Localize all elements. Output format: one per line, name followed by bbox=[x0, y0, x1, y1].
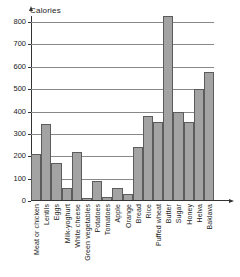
y-tick-mark bbox=[28, 201, 31, 202]
x-label-slot: Apple bbox=[112, 203, 122, 275]
x-label-slot: Milk-yoghurt bbox=[62, 203, 72, 275]
bar-sugar bbox=[173, 112, 183, 201]
x-axis-line bbox=[31, 200, 230, 201]
bar-slot bbox=[82, 22, 92, 201]
x-label-slot: Tomatoes bbox=[102, 203, 112, 275]
bar-rice bbox=[143, 116, 153, 201]
x-label-slot: Meat or chicken bbox=[31, 203, 41, 275]
y-tick-label: 200 bbox=[13, 151, 26, 160]
x-axis-label: Butter bbox=[165, 204, 172, 223]
bar-slot bbox=[123, 22, 133, 201]
x-axis-label: Milk-yoghurt bbox=[63, 204, 70, 243]
x-label-slot: Puffed wheat bbox=[153, 203, 163, 275]
x-axis-label: Rice bbox=[144, 204, 151, 218]
y-tick-label: 100 bbox=[13, 174, 26, 183]
bar-slot bbox=[153, 22, 163, 201]
bar-slot bbox=[184, 22, 194, 201]
x-axis-label: Helva bbox=[195, 204, 202, 222]
x-axis-label: Orange bbox=[124, 204, 131, 228]
bar-bread bbox=[133, 147, 143, 201]
bar-lentils bbox=[41, 124, 51, 201]
x-axis-label: Puffed wheat bbox=[155, 204, 162, 246]
bars-group bbox=[31, 22, 214, 201]
x-label-slot: Honey bbox=[184, 203, 194, 275]
x-axis-label: Meat or chicken bbox=[33, 204, 40, 255]
bar-slot bbox=[31, 22, 41, 201]
x-label-slot: Lentils bbox=[41, 203, 51, 275]
y-axis-arrow-icon bbox=[29, 6, 33, 11]
y-tick-label: 400 bbox=[13, 107, 26, 116]
bar-helva bbox=[194, 89, 204, 201]
bar-slot bbox=[72, 22, 82, 201]
x-label-slot: Baklava bbox=[204, 203, 214, 275]
calories-bar-chart: Calories 0100200300400500600700800 Meat … bbox=[0, 0, 240, 277]
x-axis-label: Tomatoes bbox=[104, 204, 111, 235]
bar-puffed-wheat bbox=[153, 122, 163, 201]
bar-meat-or-chicken bbox=[31, 154, 41, 201]
bar-slot bbox=[204, 22, 214, 201]
x-axis-label: Eggs bbox=[53, 204, 60, 220]
x-label-slot: White cheese bbox=[72, 203, 82, 275]
bar-slot bbox=[133, 22, 143, 201]
x-axis-label: Sugar bbox=[175, 204, 182, 223]
x-axis-labels-group: Meat or chickenLentilsEggsMilk-yoghurtWh… bbox=[31, 203, 214, 275]
x-axis-label: Lentils bbox=[43, 204, 50, 225]
x-label-slot: Butter bbox=[163, 203, 173, 275]
x-axis-label: Baklava bbox=[206, 204, 213, 230]
y-tick-label: 700 bbox=[13, 39, 26, 48]
bar-slot bbox=[173, 22, 183, 201]
x-label-slot: Rice bbox=[143, 203, 153, 275]
bar-white-cheese bbox=[72, 152, 82, 201]
x-axis-arrow-icon bbox=[229, 199, 234, 203]
x-axis-label: Green vegetables bbox=[83, 204, 90, 261]
bar-butter bbox=[163, 16, 173, 201]
y-tick-label: 500 bbox=[13, 84, 26, 93]
y-tick-label: 800 bbox=[13, 17, 26, 26]
bar-slot bbox=[143, 22, 153, 201]
x-label-slot: Potatoes bbox=[92, 203, 102, 275]
bar-slot bbox=[62, 22, 72, 201]
x-axis-label: Honey bbox=[185, 204, 192, 225]
bar-slot bbox=[163, 22, 173, 201]
y-tick-label: 300 bbox=[13, 129, 26, 138]
x-label-slot: Bread bbox=[133, 203, 143, 275]
bar-potatoes bbox=[92, 181, 102, 201]
x-axis-label: Apple bbox=[114, 204, 121, 222]
x-label-slot: Green vegetables bbox=[82, 203, 92, 275]
bar-honey bbox=[184, 122, 194, 201]
x-label-slot: Eggs bbox=[51, 203, 61, 275]
bar-eggs bbox=[51, 163, 61, 201]
y-tick-label: 600 bbox=[13, 62, 26, 71]
bar-baklava bbox=[204, 72, 214, 201]
x-label-slot: Orange bbox=[123, 203, 133, 275]
x-axis-label: White cheese bbox=[73, 204, 80, 248]
y-axis-title: Calories bbox=[30, 6, 61, 15]
x-axis-label: Bread bbox=[134, 204, 141, 223]
x-label-slot: Helva bbox=[194, 203, 204, 275]
y-tick-label: 0 bbox=[22, 196, 26, 205]
bar-slot bbox=[112, 22, 122, 201]
bar-milk-yoghurt bbox=[62, 188, 72, 201]
bar-slot bbox=[194, 22, 204, 201]
x-label-slot: Sugar bbox=[173, 203, 183, 275]
plot-area: 0100200300400500600700800 bbox=[31, 22, 214, 201]
bar-slot bbox=[102, 22, 112, 201]
bar-slot bbox=[92, 22, 102, 201]
bar-slot bbox=[41, 22, 51, 201]
bar-slot bbox=[51, 22, 61, 201]
x-axis-label: Potatoes bbox=[94, 204, 101, 232]
